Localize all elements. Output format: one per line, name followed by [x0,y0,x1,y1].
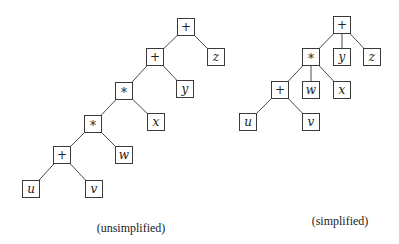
variable-node-u: u [240,114,257,131]
svg-text:x: x [153,115,160,129]
plus-operator-node: + [147,49,164,66]
variable-node-u: u [23,181,40,198]
plus-operator-node: + [178,19,195,36]
unsimplified-expression-tree: +z+y*x*w+vu [23,19,225,198]
svg-text:x: x [339,83,346,97]
variable-node-y: y [177,81,194,98]
svg-text:u: u [244,115,252,129]
svg-text:+: + [150,50,160,64]
variable-node-z: z [364,49,381,66]
svg-text:w: w [306,83,317,97]
svg-text:w: w [119,148,130,162]
variable-node-w: w [116,147,133,164]
svg-text:z: z [212,50,220,64]
svg-text:+: + [275,83,285,97]
svg-text:u: u [27,182,35,196]
svg-text:+: + [337,18,347,32]
variable-node-v: v [303,114,320,131]
variable-node-y: y [334,49,351,66]
svg-text:y: y [181,82,189,96]
svg-text:y: y [338,50,346,64]
svg-text:+: + [57,148,67,162]
svg-text:+: + [181,20,191,34]
variable-node-x: x [148,114,165,131]
unsimplified-caption: (unsimplified) [97,221,166,236]
svg-text:*: * [121,86,127,100]
times-operator-node: * [116,83,133,101]
svg-text:*: * [308,52,314,66]
plus-operator-node: + [334,17,351,34]
plus-operator-node: + [272,82,289,99]
variable-node-w: w [303,82,320,99]
svg-text:*: * [90,119,96,133]
expression-tree-canvas: +z+y*x*w+vu +*yz+wxuv [0,0,399,244]
svg-text:v: v [308,115,315,129]
variable-node-z: z [208,49,225,66]
plus-operator-node: + [54,147,71,164]
svg-text:z: z [368,50,376,64]
simplified-caption: (simplified) [312,214,369,229]
variable-node-x: x [334,82,351,99]
svg-text:v: v [91,182,98,196]
simplified-expression-tree: +*yz+wxuv [240,17,381,131]
times-operator-node: * [85,116,102,134]
times-operator-node: * [303,49,320,67]
variable-node-v: v [86,181,103,198]
